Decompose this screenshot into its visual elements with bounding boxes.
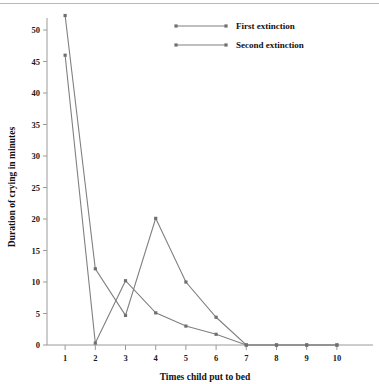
data-point-marker [335,343,338,346]
data-point-marker [124,279,127,282]
data-point-marker [64,14,67,17]
y-tick-label: 15 [32,246,41,256]
y-tick-label: 20 [32,214,41,224]
data-point-marker [154,311,157,314]
data-point-marker [275,343,278,346]
data-point-marker [184,325,187,328]
legend-marker [174,43,177,46]
x-axis: 12345678910 [47,345,373,363]
x-tick-label: 4 [154,353,159,363]
y-tick-label: 45 [32,57,41,67]
x-tick-label: 6 [214,353,218,363]
series-line-first-extinction [65,55,337,345]
legend-marker [224,43,227,46]
x-axis-title: Times child put to bed [160,372,251,382]
y-tick-label: 35 [32,120,41,130]
y-tick-label: 5 [36,309,40,319]
x-tick-label: 3 [123,353,127,363]
data-point-marker [305,343,308,346]
y-axis-title: Duration of crying in minutes [7,127,17,248]
legend-marker [224,24,227,27]
y-tick-label: 10 [32,277,41,287]
data-point-marker [94,267,97,270]
data-point-marker [124,314,127,317]
x-tick-label: 10 [333,353,342,363]
data-point-marker [245,343,248,346]
data-point-marker [214,316,217,319]
data-point-marker [154,217,157,220]
y-tick-label: 50 [32,25,41,35]
data-point-marker [64,54,67,57]
y-tick-label: 25 [32,183,41,193]
legend-label: First extinction [236,21,295,31]
data-point-marker [214,333,217,336]
data-point-marker [94,342,97,345]
x-tick-label: 1 [63,353,67,363]
data-series-group [64,14,339,347]
line-chart-plot: 05101520253035404550 12345678910 First e… [0,0,379,384]
x-tick-label: 8 [274,353,278,363]
chart-legend: First extinctionSecond extinction [174,21,303,50]
x-tick-label: 2 [93,353,97,363]
legend-marker [174,24,177,27]
data-point-marker [184,280,187,283]
chart-figure: 05101520253035404550 12345678910 First e… [0,0,379,384]
y-tick-label: 40 [32,88,41,98]
x-tick-label: 7 [244,353,249,363]
x-tick-label: 9 [305,353,309,363]
x-tick-label: 5 [184,353,188,363]
y-tick-label: 30 [32,151,41,161]
y-tick-label: 0 [36,340,40,350]
y-axis: 05101520253035404550 [32,18,48,350]
series-line-second-extinction [65,16,337,345]
legend-label: Second extinction [236,40,304,50]
